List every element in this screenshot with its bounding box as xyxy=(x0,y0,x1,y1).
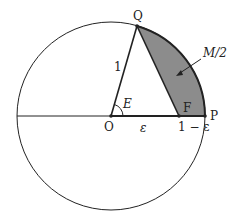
label-F: F xyxy=(183,102,191,114)
label-epsilon: ε xyxy=(140,122,146,134)
diagram-svg xyxy=(0,0,234,221)
label-O: O xyxy=(104,121,114,133)
shaded-area-region xyxy=(137,26,205,116)
point-P xyxy=(203,114,207,118)
label-P: P xyxy=(210,110,218,122)
point-O xyxy=(109,114,113,118)
kepler-diagram: Q 1 E F P O ε 1 − ε M/2 xyxy=(0,0,234,221)
label-angle-E: E xyxy=(123,98,132,110)
point-F xyxy=(177,114,181,118)
point-Q xyxy=(135,24,139,28)
label-radius-1: 1 xyxy=(114,61,122,73)
angle-E-arc xyxy=(115,105,124,117)
label-one-minus-epsilon: 1 − ε xyxy=(178,121,210,133)
label-Q: Q xyxy=(133,10,143,22)
label-area-M-half: M/2 xyxy=(203,47,227,59)
